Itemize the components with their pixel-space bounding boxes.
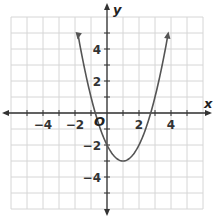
arrow-down-icon <box>104 209 110 216</box>
y-axis-label: y <box>113 2 122 17</box>
y-tick-label: 2 <box>93 75 101 89</box>
arrow-left-icon <box>2 110 9 116</box>
arrow-up-icon <box>104 3 110 10</box>
x-tick-label: −2 <box>66 118 84 132</box>
y-tick-label: −2 <box>83 139 101 153</box>
x-tick-label: −4 <box>34 118 52 132</box>
origin-label: O <box>94 114 105 129</box>
x-axis-label: x <box>203 96 213 111</box>
coordinate-plane: −4−22442−2−4 x y O <box>0 0 214 218</box>
x-tick-label: 2 <box>135 118 143 132</box>
y-tick-label: 4 <box>93 43 101 57</box>
y-tick-label: −4 <box>83 171 101 185</box>
axes <box>2 3 212 216</box>
x-tick-label: 4 <box>167 118 175 132</box>
